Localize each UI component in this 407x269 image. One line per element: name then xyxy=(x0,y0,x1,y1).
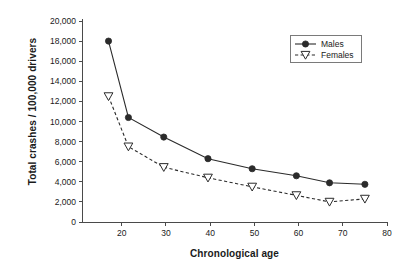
series-layer xyxy=(104,38,369,206)
data-point-females xyxy=(325,198,334,206)
plot-area: 02,0004,0006,0008,00010,00012,00014,0001… xyxy=(0,0,407,269)
x-tick-label: 70 xyxy=(338,228,348,238)
series-line-males xyxy=(109,41,365,184)
y-tick-label: 16,000 xyxy=(50,56,76,66)
y-tick-label: 2,000 xyxy=(55,197,77,207)
data-point-females xyxy=(248,183,257,191)
data-point-females xyxy=(124,143,133,151)
y-tick-label: 14,000 xyxy=(50,76,76,86)
legend-label: Males xyxy=(321,39,344,49)
y-tick-label: 12,000 xyxy=(50,96,76,106)
x-tick-layer: 20304050607080 xyxy=(117,222,392,238)
crash-rate-line-chart: Total crashes / 100,000 drivers 02,0004,… xyxy=(0,0,407,269)
data-point-females xyxy=(292,192,301,200)
series-line-females xyxy=(109,96,365,202)
data-point-females xyxy=(204,174,213,182)
legend-marker xyxy=(302,41,308,47)
x-axis-title: Chronological age xyxy=(82,248,387,259)
y-tick-label: 0 xyxy=(71,217,76,227)
data-point-males xyxy=(249,166,255,172)
x-tick-label: 80 xyxy=(382,228,392,238)
data-point-males xyxy=(125,114,131,120)
x-tick-label: 20 xyxy=(117,228,127,238)
y-tick-label: 20,000 xyxy=(50,16,76,26)
y-tick-layer: 02,0004,0006,0008,00010,00012,00014,0001… xyxy=(50,16,82,227)
legend-layer[interactable]: MalesFemales xyxy=(290,35,361,62)
data-point-males xyxy=(105,38,111,44)
x-tick-label: 60 xyxy=(294,228,304,238)
legend-label: Females xyxy=(321,50,354,60)
data-point-males xyxy=(161,134,167,140)
data-point-females xyxy=(360,195,369,203)
data-point-males xyxy=(326,180,332,186)
data-point-females xyxy=(104,93,113,101)
y-tick-label: 4,000 xyxy=(55,177,77,187)
data-point-males xyxy=(362,181,368,187)
y-tick-label: 6,000 xyxy=(55,157,77,167)
data-point-males xyxy=(205,156,211,162)
x-tick-label: 40 xyxy=(205,228,215,238)
x-tick-label: 30 xyxy=(161,228,171,238)
y-tick-label: 18,000 xyxy=(50,36,76,46)
y-tick-label: 8,000 xyxy=(55,137,77,147)
x-tick-label: 50 xyxy=(250,228,260,238)
y-tick-label: 10,000 xyxy=(50,117,76,127)
data-point-males xyxy=(293,173,299,179)
